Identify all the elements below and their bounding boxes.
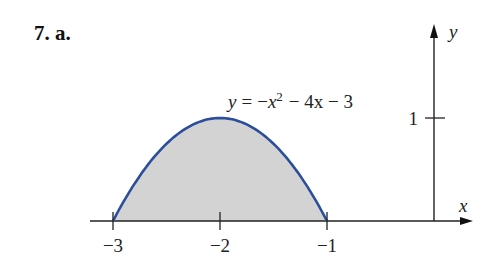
graph: 7. a. −3−2−1 1 x y y=−x2− 4x − 3 <box>0 0 492 264</box>
x-tick-label: −1 <box>317 235 337 256</box>
y-tick-label: 1 <box>409 108 419 129</box>
equation-label: y=−x2− 4x − 3 <box>226 89 353 112</box>
y-axis-arrow-icon <box>430 24 438 38</box>
x-axis-label: x <box>458 195 468 216</box>
x-tick-label: −3 <box>103 235 123 256</box>
x-axis-arrow-icon <box>460 217 473 225</box>
problem-label: 7. a. <box>34 21 71 45</box>
y-axis-label: y <box>447 21 458 42</box>
x-tick-label: −2 <box>210 235 230 256</box>
